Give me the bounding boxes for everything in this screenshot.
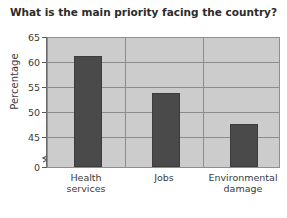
category-label-health-services: Health services [47,172,125,194]
bar-health-services [74,56,102,167]
y-tick-label-0: 0 [14,162,40,173]
y-tick-label-45: 45 [14,132,40,143]
y-tick-label-65: 65 [14,32,40,43]
y-tick-label-55: 55 [14,82,40,93]
category-label-line1: Environmental [201,172,285,183]
y-tick-label-60: 60 [14,57,40,68]
category-label-line2: damage [201,183,285,194]
bar-jobs [152,93,180,167]
chart-title: What is the main priority facing the cou… [0,6,287,18]
bar-chart: What is the main priority facing the cou… [0,0,287,218]
category-label-line1: Health [47,172,125,183]
category-label-environmental-damage: Environmental damage [201,172,285,194]
category-label-jobs: Jobs [125,172,203,183]
y-tick-label-50: 50 [14,107,40,118]
category-label-line2: services [47,183,125,194]
plot-area [47,37,280,168]
category-label-line1: Jobs [125,172,203,183]
category-divider-1 [125,38,126,167]
category-divider-2 [203,38,204,167]
bar-environmental-damage [230,124,258,167]
